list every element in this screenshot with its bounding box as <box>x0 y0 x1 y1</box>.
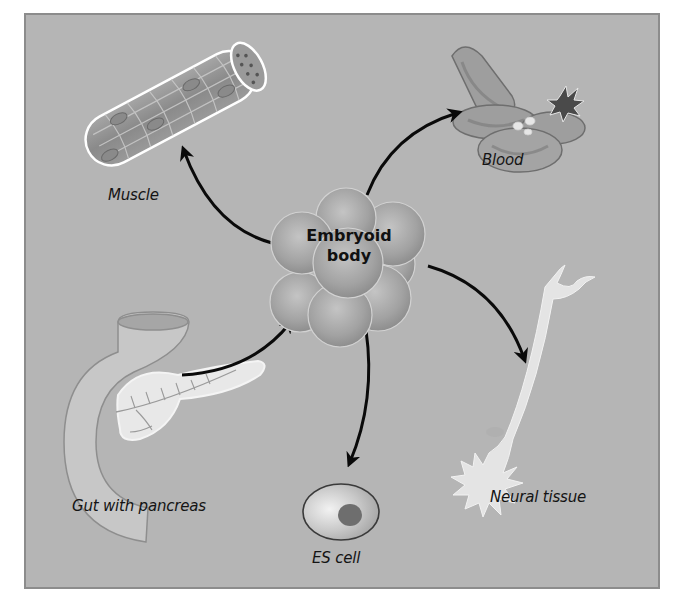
embryoid-body-label: Embryoid body <box>289 226 409 266</box>
embryoid-label-line1: Embryoid <box>289 226 409 246</box>
arrow-to-blood <box>367 113 457 195</box>
arrow-to-es-cell <box>350 330 369 462</box>
neuron-icon <box>451 265 595 517</box>
arrow-to-muscle <box>184 151 272 243</box>
embryoid-label-line2: body <box>289 246 409 266</box>
diagram-artwork <box>0 0 679 612</box>
muscle-label: Muscle <box>108 186 159 204</box>
neural-tissue-label: Neural tissue <box>490 488 586 506</box>
es-cell-icon <box>303 484 379 540</box>
muscle-fiber-icon <box>76 37 273 174</box>
es-cell-label: ES cell <box>312 549 360 567</box>
gut-pancreas-label: Gut with pancreas <box>72 497 206 515</box>
blood-label: Blood <box>482 151 523 169</box>
arrow-to-neural <box>428 266 524 358</box>
embryoid-body-icon <box>270 188 425 347</box>
